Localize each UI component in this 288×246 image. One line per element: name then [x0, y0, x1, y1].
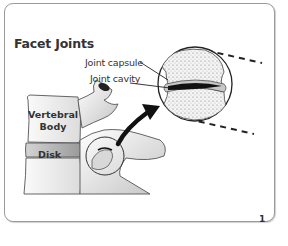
lower-vertebra-shape [24, 158, 81, 194]
upper-facet-process [78, 80, 118, 128]
disk-label: Disk [38, 149, 61, 160]
page-number: 1 [259, 214, 265, 224]
joint-capsule-label: Joint capsule [85, 57, 143, 68]
joint-cavity-label: Joint cavity [90, 73, 140, 84]
joint-closeup [158, 47, 232, 121]
figure-title: Facet Joints [14, 36, 94, 51]
vertebral-body-label: Vertebral Body [28, 109, 78, 133]
